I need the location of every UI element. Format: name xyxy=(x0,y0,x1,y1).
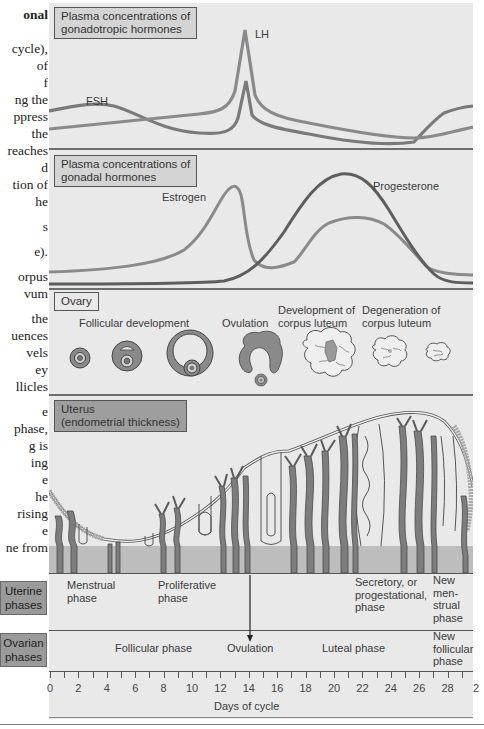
fsh-label: FSH xyxy=(86,95,108,108)
axis-tick-label: 26 xyxy=(413,682,425,694)
axis-tick xyxy=(178,672,179,678)
body-text-line: vels xyxy=(26,344,48,361)
axis-tick xyxy=(206,672,207,678)
axis-tick-label: 4 xyxy=(104,682,110,694)
axis-title: Days of cycle xyxy=(214,700,279,713)
body-text-line: rising xyxy=(17,505,48,522)
axis-tick xyxy=(419,672,420,678)
axis-tick xyxy=(107,672,108,678)
estrogen-label: Estrogen xyxy=(162,191,206,204)
body-text-line: ppress xyxy=(14,108,49,125)
developing-corpus-luteum-icon xyxy=(303,328,355,377)
body-text-line: phase, xyxy=(14,420,48,437)
ovarian-phases-row: Follicular phase Ovulation Luteal phase … xyxy=(49,631,473,671)
new-follicular-phase-label: Newfollicularphase xyxy=(433,630,473,668)
body-text-line: e). xyxy=(34,243,48,260)
axis-tick xyxy=(277,672,278,678)
axis-tick-label: 18 xyxy=(299,682,311,694)
axis-tick xyxy=(164,672,165,678)
axis-tick xyxy=(291,672,292,678)
follicular-phase-label: Follicular phase xyxy=(115,642,192,655)
axis-tick-label: 22 xyxy=(356,682,368,694)
page-bottom-rule xyxy=(0,724,484,725)
axis-tick xyxy=(405,672,406,678)
body-text-line: ing xyxy=(31,454,48,471)
ovulation-phase-label: Ovulation xyxy=(227,642,273,655)
body-text-line: cycle), xyxy=(12,40,48,57)
menstrual-cycle-figure: Plasma concentrations of gonadotropic ho… xyxy=(49,3,473,719)
menstrual-phase-label: Menstrualphase xyxy=(67,579,115,604)
body-text-line: e xyxy=(42,403,48,420)
axis-tick xyxy=(377,672,378,678)
panel-gonadotropic-hormones: Plasma concentrations of gonadotropic ho… xyxy=(49,3,473,149)
body-text-line: orpus xyxy=(18,268,48,285)
ovary-stages-illustration xyxy=(49,290,473,394)
axis-tick xyxy=(348,672,349,678)
axis-tick xyxy=(78,672,79,678)
body-text-line: of xyxy=(37,57,48,74)
body-text-line: changes xyxy=(5,556,48,560)
progesterone-label: Progesterone xyxy=(373,180,439,193)
axis-tick xyxy=(135,672,136,678)
axis-tick xyxy=(149,672,150,678)
axis-tick xyxy=(192,672,193,678)
axis-tick xyxy=(448,672,449,678)
axis-tick xyxy=(121,672,122,678)
lh-label: LH xyxy=(255,28,269,41)
secretory-phase-label: Secretory, orprogestational,phase xyxy=(355,576,427,614)
body-text-line: e xyxy=(42,522,48,539)
new-menstrual-phase-label: Newmen-strualphase xyxy=(433,574,463,624)
panel-uterus: Uterus (endometrial thickness) xyxy=(49,396,473,573)
axis-tick-label: 12 xyxy=(214,682,226,694)
ovarian-phases-side-label: Ovarian phases xyxy=(0,633,47,667)
axis-tick-label: 20 xyxy=(328,682,340,694)
body-text-line: e xyxy=(42,471,48,488)
secondary-follicle-icon xyxy=(112,341,142,371)
axis-tick xyxy=(263,672,264,678)
body-text-line: the xyxy=(32,125,49,142)
fsh-curve xyxy=(49,81,473,144)
body-text-line: llicles xyxy=(16,378,48,395)
axis-tick xyxy=(220,672,221,678)
body-text-line: uences xyxy=(11,327,48,344)
axis-tick xyxy=(334,672,335,678)
body-text-column: onalcycle),offng theppressthereachesdtio… xyxy=(0,0,48,560)
body-text-line: he xyxy=(35,193,48,210)
axis-tick xyxy=(93,672,94,678)
body-text-line: s xyxy=(43,218,48,235)
uterus-title-line1: Uterus xyxy=(61,403,180,416)
body-text-line: he xyxy=(35,488,48,505)
body-text-line: onal xyxy=(23,6,48,23)
mature-follicle-icon xyxy=(167,330,213,376)
axis-tick-label: 6 xyxy=(132,682,138,694)
axis-tick xyxy=(433,672,434,678)
axis-tick xyxy=(320,672,321,678)
body-text-line: the xyxy=(32,310,49,327)
axis-tick xyxy=(249,672,250,678)
axis-tick xyxy=(391,672,392,678)
gonadal-chart xyxy=(49,150,473,288)
body-text-line: ey xyxy=(35,361,48,378)
axis-tick-label: 10 xyxy=(186,682,198,694)
axis-tick-label: 24 xyxy=(385,682,397,694)
uterine-phases-row: Menstrualphase Proliferativephase Secret… xyxy=(49,574,473,630)
body-text-line: ng the xyxy=(15,91,48,108)
body-text-line: f xyxy=(44,74,49,91)
panel-gonadal-hormones: Plasma concentrations of gonadal hormone… xyxy=(49,150,473,288)
axis-line xyxy=(49,671,473,672)
ovulation-icon xyxy=(239,331,282,386)
axis-tick xyxy=(362,672,363,678)
body-text-line: ne from xyxy=(6,539,48,556)
uterine-phases-side-label: Uterine phases xyxy=(0,581,47,615)
axis-tick-label: 2 xyxy=(75,682,81,694)
axis-tick xyxy=(50,672,51,678)
figure-bottom-rule xyxy=(49,717,473,718)
body-text-line: tion of xyxy=(12,176,48,193)
body-text-line: g is xyxy=(29,437,48,454)
axis-tick-label: 8 xyxy=(161,682,167,694)
luteal-phase-label: Luteal phase xyxy=(322,642,385,655)
axis-tick xyxy=(235,672,236,678)
axis-tick-label: 28 xyxy=(441,682,453,694)
body-text-line: d xyxy=(41,159,48,176)
primary-follicle-icon xyxy=(70,348,90,368)
